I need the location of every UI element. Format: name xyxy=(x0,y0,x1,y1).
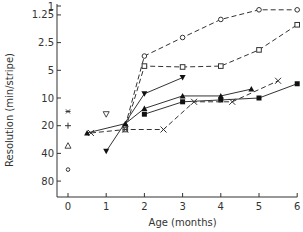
y-tick-label: 2.5 xyxy=(38,37,54,48)
square-marker-icon xyxy=(257,48,262,53)
x-tick-label: 6 xyxy=(294,201,300,212)
series-open-square xyxy=(123,22,300,131)
circle-marker-icon xyxy=(180,35,185,40)
circle-marker-icon xyxy=(219,17,224,22)
filled-down-triangle-marker-icon xyxy=(141,91,147,97)
x-tick-label: 0 xyxy=(65,201,71,212)
x-tick-label: 4 xyxy=(218,201,224,212)
filled-square-marker-icon xyxy=(142,112,147,117)
filled-triangle-marker-icon xyxy=(248,86,254,92)
series-open-circle xyxy=(123,8,300,128)
chart: 11.252.55102040800123456Age (months)Reso… xyxy=(0,0,303,232)
series-filled-triangle xyxy=(84,86,254,135)
filled-down-triangle-marker-icon xyxy=(180,75,186,81)
y-tick-label: 20 xyxy=(41,120,54,131)
x-tick-label: 3 xyxy=(179,201,185,212)
y-axis-title: Resolution (min/stripe) xyxy=(4,53,15,167)
filled-square-marker-icon xyxy=(295,81,300,86)
open-down-triangle-marker-icon xyxy=(103,112,109,118)
square-marker-icon xyxy=(180,65,185,70)
filled-square-marker-icon xyxy=(257,96,262,101)
y-tick-label: 10 xyxy=(41,93,54,104)
labels-layer: 11.252.55102040800123456Age (months)Reso… xyxy=(4,1,300,229)
series-line xyxy=(87,89,251,133)
square-marker-icon xyxy=(295,22,300,27)
series-filled-square xyxy=(142,81,300,116)
circle-marker-icon xyxy=(257,8,262,13)
series-line xyxy=(125,25,297,130)
circle-marker-icon xyxy=(142,54,147,59)
y-tick-label: 1.25 xyxy=(32,9,54,20)
x-tick-label: 5 xyxy=(256,201,262,212)
circle-marker-icon xyxy=(295,8,300,13)
y-tick-label: 5 xyxy=(48,65,54,76)
series-cross xyxy=(88,78,281,136)
filled-square-marker-icon xyxy=(180,99,185,104)
y-tick-label: 40 xyxy=(41,148,54,159)
x-tick-label: 1 xyxy=(103,201,109,212)
square-marker-icon xyxy=(219,64,224,69)
square-marker-icon xyxy=(142,64,147,69)
x-tick-label: 2 xyxy=(141,201,147,212)
filled-down-triangle-marker-icon xyxy=(103,149,109,155)
x-axis-title: Age (months) xyxy=(149,217,217,228)
y-tick-label: 80 xyxy=(41,176,54,187)
series-line xyxy=(125,10,297,126)
series-layer xyxy=(65,8,300,172)
circle-marker-icon xyxy=(66,168,70,172)
open-triangle-marker-icon xyxy=(65,143,71,149)
